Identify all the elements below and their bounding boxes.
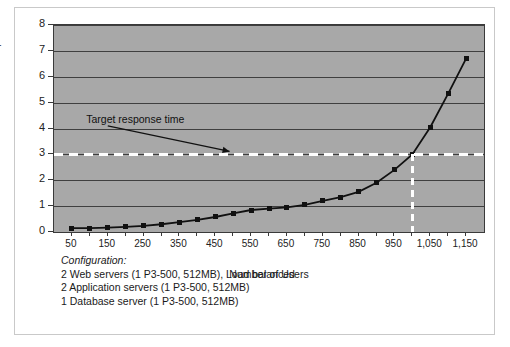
y-tick-mark xyxy=(48,205,53,206)
y-tick-label: 5 xyxy=(23,96,45,107)
y-tick-mark xyxy=(48,231,53,232)
y-tick-label: 8 xyxy=(23,18,45,29)
x-tick-mark xyxy=(340,232,341,236)
x-tick-label: 850 xyxy=(338,239,378,249)
x-tick-mark xyxy=(178,232,179,236)
x-tick-mark xyxy=(161,232,162,236)
x-tick-mark xyxy=(358,232,359,236)
x-tick-label: 350 xyxy=(158,239,198,249)
x-tick-label: 550 xyxy=(230,239,270,249)
x-tick-mark xyxy=(465,232,466,236)
y-tick-label: 1 xyxy=(23,199,45,210)
x-tick-label: 750 xyxy=(302,239,342,249)
configuration-line: 2 Application servers (1 P3-500, 512MB) xyxy=(61,281,295,295)
y-axis-title: Response Time xyxy=(0,0,1,66)
x-tick-mark xyxy=(411,232,412,236)
x-tick-mark xyxy=(286,232,287,236)
configuration-heading: Configuration: xyxy=(61,254,295,268)
y-tick-mark xyxy=(48,24,53,25)
figure-caption-cropped xyxy=(14,338,314,347)
configuration-line: 1 Database server (1 P3-500, 512MB) xyxy=(61,295,295,309)
configuration-line: 2 Web servers (1 P3-500, 512MB), Load ba… xyxy=(61,268,295,282)
x-tick-mark xyxy=(268,232,269,236)
x-tick-label: 250 xyxy=(123,239,163,249)
x-tick-label: 150 xyxy=(87,239,127,249)
x-tick-mark xyxy=(71,232,72,236)
annotation-arrow-icon xyxy=(54,25,484,232)
x-tick-mark xyxy=(376,232,377,236)
y-tick-label: 6 xyxy=(23,70,45,81)
x-tick-mark xyxy=(322,232,323,236)
x-tick-mark xyxy=(393,232,394,236)
y-tick-label: 7 xyxy=(23,44,45,55)
x-tick-label: 1,050 xyxy=(409,239,449,249)
y-tick-mark xyxy=(48,102,53,103)
x-tick-label: 1,150 xyxy=(445,239,485,249)
y-tick-mark xyxy=(48,153,53,154)
x-tick-mark xyxy=(214,232,215,236)
figure-container: Target response time Response Time 01234… xyxy=(14,7,495,335)
x-tick-mark xyxy=(447,232,448,236)
y-tick-label: 4 xyxy=(23,122,45,133)
y-tick-label: 0 xyxy=(23,225,45,236)
y-tick-mark xyxy=(48,76,53,77)
x-tick-mark xyxy=(232,232,233,236)
x-tick-mark xyxy=(89,232,90,236)
y-tick-label: 3 xyxy=(23,147,45,158)
x-tick-label: 950 xyxy=(373,239,413,249)
x-tick-mark xyxy=(196,232,197,236)
chart-plot-area: Target response time xyxy=(53,24,485,233)
y-tick-mark xyxy=(48,179,53,180)
x-tick-mark xyxy=(250,232,251,236)
x-tick-mark xyxy=(429,232,430,236)
x-tick-label: 50 xyxy=(51,239,91,249)
x-tick-mark xyxy=(304,232,305,236)
configuration-block: Configuration: 2 Web servers (1 P3-500, … xyxy=(61,254,295,308)
y-tick-label: 2 xyxy=(23,173,45,184)
x-tick-mark xyxy=(107,232,108,236)
y-tick-mark xyxy=(48,128,53,129)
x-tick-mark xyxy=(125,232,126,236)
x-tick-label: 650 xyxy=(266,239,306,249)
x-tick-label: 450 xyxy=(194,239,234,249)
y-tick-mark xyxy=(48,50,53,51)
x-tick-mark xyxy=(143,232,144,236)
